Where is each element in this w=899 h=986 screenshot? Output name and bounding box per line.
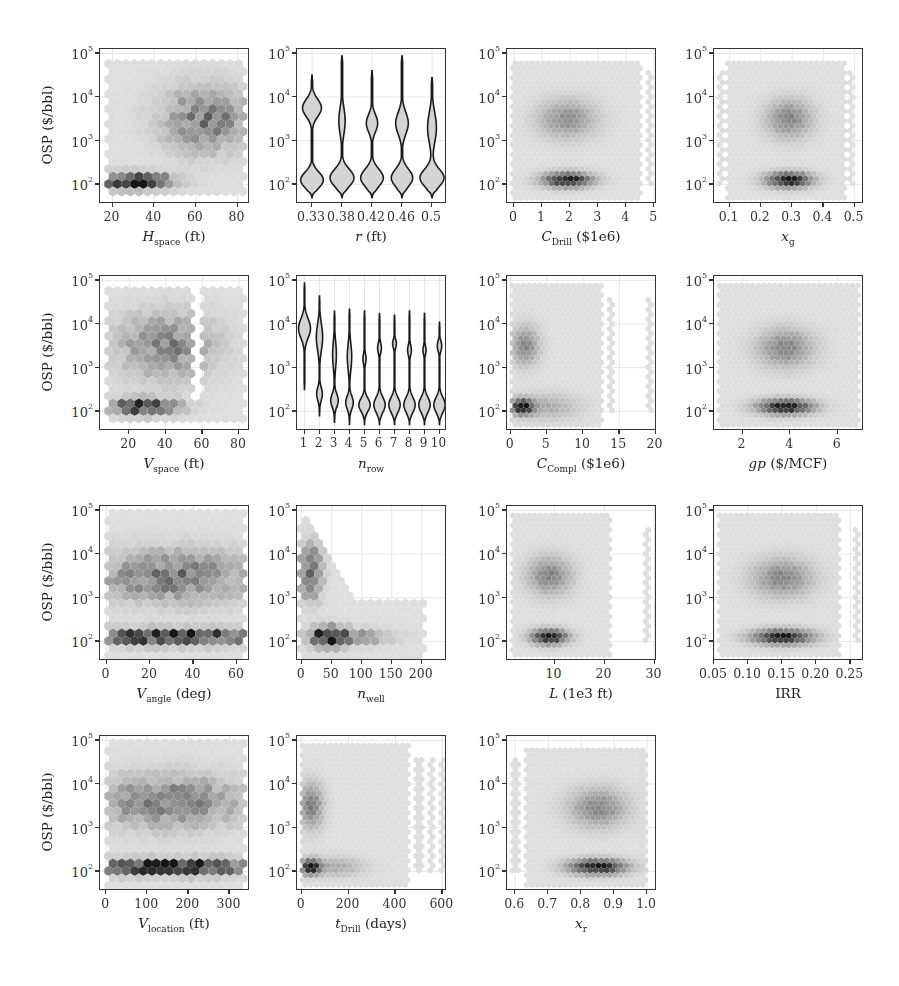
- y-tick-mark: [95, 553, 99, 554]
- y-tick-mark: [95, 640, 99, 641]
- y-tick-label: 102: [59, 863, 93, 879]
- x-tick-mark: [394, 430, 395, 434]
- x-tick-mark: [580, 890, 581, 894]
- tick-base: 10: [71, 636, 88, 651]
- tick-base: 10: [478, 505, 495, 520]
- x-tick-mark: [319, 430, 320, 434]
- tick-exponent: 3: [495, 132, 500, 141]
- x-tick-mark: [815, 660, 816, 664]
- x-tick-label: 40: [133, 210, 173, 223]
- tick-exponent: 2: [702, 632, 707, 641]
- y-tick-mark: [502, 783, 506, 784]
- tick-base: 10: [685, 135, 702, 150]
- x-tick-label: 10: [534, 667, 574, 680]
- tick-exponent: 5: [285, 271, 290, 280]
- y-tick-label: 103: [673, 590, 707, 606]
- x-tick-label: 0: [86, 667, 126, 680]
- tick-base: 10: [685, 505, 702, 520]
- x-axis-label: CCompl ($1e6): [486, 455, 676, 474]
- x-axis-label: nrow: [276, 455, 466, 474]
- y-tick-mark: [292, 183, 296, 184]
- x-label-unit: (ft): [362, 228, 387, 244]
- tick-base: 10: [268, 822, 285, 837]
- y-tick-label: 104: [673, 546, 707, 562]
- y-tick-mark: [95, 783, 99, 784]
- tick-base: 10: [478, 778, 495, 793]
- y-tick-label: 102: [673, 633, 707, 649]
- x-tick-mark: [546, 430, 547, 434]
- y-tick-mark: [709, 410, 713, 411]
- tick-base: 10: [71, 91, 88, 106]
- plot-canvas: [100, 276, 249, 430]
- y-tick-mark: [502, 553, 506, 554]
- x-label-subscript: Compl: [547, 464, 576, 474]
- x-tick-label: 0.5: [834, 210, 874, 223]
- y-tick-mark: [95, 323, 99, 324]
- tick-base: 10: [268, 318, 285, 333]
- tick-exponent: 3: [702, 359, 707, 368]
- y-tick-label: 105: [59, 272, 93, 288]
- x-tick-mark: [781, 660, 782, 664]
- x-tick-label: 20: [92, 210, 132, 223]
- plot-canvas: [714, 49, 863, 203]
- y-tick-mark: [95, 597, 99, 598]
- tick-base: 10: [268, 179, 285, 194]
- x-label-symbol: n: [357, 685, 366, 701]
- x-tick-mark: [409, 430, 410, 434]
- x-tick-label: 15: [598, 437, 638, 450]
- tick-exponent: 2: [495, 175, 500, 184]
- plot-canvas: [714, 506, 863, 660]
- tick-base: 10: [478, 179, 495, 194]
- plot-canvas: [507, 49, 656, 203]
- y-tick-label: 105: [466, 732, 500, 748]
- x-tick-label: 20: [108, 437, 148, 450]
- x-tick-mark: [625, 203, 626, 207]
- tick-base: 10: [268, 362, 285, 377]
- tick-base: 10: [478, 822, 495, 837]
- tick-exponent: 3: [495, 819, 500, 828]
- x-tick-mark: [201, 430, 202, 434]
- x-tick-mark: [510, 430, 511, 434]
- y-tick-mark: [292, 640, 296, 641]
- y-tick-label: 105: [673, 45, 707, 61]
- y-tick-mark: [709, 279, 713, 280]
- y-tick-mark: [292, 783, 296, 784]
- y-tick-label: 103: [673, 133, 707, 149]
- x-tick-mark: [364, 430, 365, 434]
- y-tick-label: 104: [59, 89, 93, 105]
- tick-exponent: 5: [88, 731, 93, 740]
- x-tick-mark: [791, 203, 792, 207]
- x-tick-mark: [391, 660, 392, 664]
- tick-exponent: 4: [88, 545, 93, 554]
- x-tick-mark: [604, 660, 605, 664]
- tick-exponent: 5: [285, 731, 290, 740]
- y-tick-label: 105: [466, 45, 500, 61]
- y-tick-mark: [292, 410, 296, 411]
- y-tick-mark: [709, 323, 713, 324]
- tick-exponent: 5: [702, 501, 707, 510]
- tick-exponent: 5: [495, 44, 500, 53]
- y-tick-mark: [502, 597, 506, 598]
- y-tick-label: 105: [59, 502, 93, 518]
- x-tick-label: 200: [328, 897, 368, 910]
- tick-exponent: 4: [285, 88, 290, 97]
- tick-base: 10: [478, 548, 495, 563]
- tick-exponent: 4: [285, 545, 290, 554]
- x-tick-mark: [854, 203, 855, 207]
- x-tick-mark: [439, 430, 440, 434]
- tick-exponent: 5: [495, 501, 500, 510]
- plot-canvas: [297, 506, 446, 660]
- y-tick-mark: [502, 183, 506, 184]
- plot-canvas: [297, 49, 446, 203]
- y-tick-mark: [292, 739, 296, 740]
- y-tick-label: 105: [673, 502, 707, 518]
- y-tick-label: 103: [256, 820, 290, 836]
- y-tick-label: 103: [466, 360, 500, 376]
- tick-base: 10: [268, 735, 285, 750]
- x-tick-mark: [187, 890, 188, 894]
- y-tick-mark: [95, 183, 99, 184]
- y-tick-label: 105: [673, 272, 707, 288]
- x-tick-label: 40: [172, 667, 212, 680]
- plot-area: [506, 48, 656, 203]
- x-label-subscript: Drill: [341, 924, 361, 934]
